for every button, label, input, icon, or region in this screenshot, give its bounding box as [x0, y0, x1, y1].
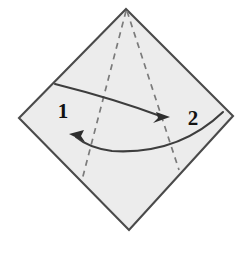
step-label-1: 1: [58, 99, 69, 123]
origami-diagram: 1 2: [0, 0, 248, 254]
step-label-2: 2: [188, 106, 199, 130]
origami-figure-canvas: 1 2: [0, 0, 248, 254]
paper-shade: [22, 12, 230, 227]
